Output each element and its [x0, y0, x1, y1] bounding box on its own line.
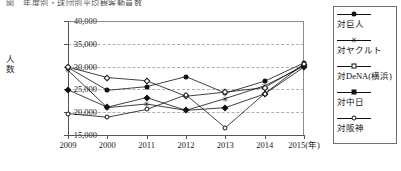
- legend-marker-icon: ✳: [351, 37, 358, 44]
- legend-item[interactable]: 対巨人: [337, 10, 394, 36]
- x-axis-tick: [147, 135, 148, 139]
- legend-marker-sample: ✳: [337, 36, 371, 45]
- legend-marker-sample: [337, 88, 371, 97]
- chart-title: 図 年度別・球団別平均観客動員数: [6, 0, 142, 6]
- legend: 対巨人✳対ヤクルト対DeNA(横浜)対中日対阪神: [333, 6, 397, 144]
- legend-marker-sample: [337, 114, 371, 123]
- data-point: [144, 107, 149, 112]
- x-axis-tick: [68, 135, 69, 139]
- data-point: [184, 92, 189, 97]
- y-axis-title: 人数: [4, 54, 16, 74]
- data-point: [144, 84, 149, 89]
- chart-figure: 図 年度別・球団別平均観客動員数 人数 40,00035,00030,00025…: [0, 0, 401, 171]
- legend-label: 対中日: [337, 97, 394, 108]
- legend-item[interactable]: 対DeNA(横浜): [337, 62, 394, 88]
- legend-item[interactable]: 対阪神: [337, 114, 394, 140]
- x-axis-tick: [186, 135, 187, 139]
- legend-label: 対阪神: [337, 123, 394, 134]
- legend-item[interactable]: ✳対ヤクルト: [337, 36, 394, 62]
- data-point: ✳: [222, 95, 229, 102]
- legend-label: 対ヤクルト: [337, 45, 394, 56]
- data-point: [66, 111, 71, 116]
- data-point: [262, 91, 267, 96]
- legend-item[interactable]: 対中日: [337, 88, 394, 114]
- x-axis-tick: [225, 135, 226, 139]
- x-axis-tick: [304, 135, 305, 139]
- legend-marker-sample: [337, 10, 371, 19]
- data-point: [302, 61, 307, 66]
- legend-marker-icon: [352, 64, 357, 69]
- data-point: [223, 125, 228, 130]
- x-axis-tick: [265, 135, 266, 139]
- plot-area: ✳✳✳✳✳✳✳: [68, 21, 304, 135]
- legend-marker-sample: [337, 62, 371, 71]
- legend-label: 対DeNA(横浜): [337, 71, 394, 82]
- data-point: [184, 74, 189, 79]
- data-point: [105, 88, 110, 93]
- legend-label: 対巨人: [337, 19, 394, 30]
- x-axis-tick: [107, 135, 108, 139]
- legend-marker-icon: [352, 12, 357, 17]
- legend-marker-icon: [352, 116, 357, 121]
- legend-marker-icon: [352, 90, 357, 95]
- x-axis-label: 2015(年): [280, 141, 328, 150]
- data-point: [105, 115, 110, 120]
